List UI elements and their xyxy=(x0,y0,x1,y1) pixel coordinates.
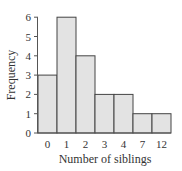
histogram-bar xyxy=(114,94,133,133)
y-axis: 0123456 xyxy=(26,11,39,139)
y-tick-label: 0 xyxy=(26,127,32,139)
x-axis-title: Number of siblings xyxy=(59,152,152,166)
histogram-bar xyxy=(38,75,57,133)
x-tick-label: 7 xyxy=(140,138,146,150)
x-axis: 01234712 xyxy=(38,133,172,150)
x-tick-label: 12 xyxy=(156,138,167,150)
y-tick-label: 2 xyxy=(26,88,32,100)
histogram-bar xyxy=(133,114,152,133)
bars-group xyxy=(38,17,171,133)
histogram-bar xyxy=(152,114,171,133)
x-tick-label: 4 xyxy=(121,138,127,150)
y-tick-label: 1 xyxy=(26,108,32,120)
x-tick-label: 2 xyxy=(83,138,89,150)
y-axis-title: Frequency xyxy=(4,50,18,101)
y-tick-label: 6 xyxy=(26,11,32,23)
histogram-bar xyxy=(57,17,76,133)
y-tick-label: 3 xyxy=(26,69,32,81)
histogram-bar xyxy=(95,94,114,133)
x-tick-label: 0 xyxy=(45,138,51,150)
x-tick-label: 3 xyxy=(102,138,108,150)
histogram-bar xyxy=(76,56,95,133)
y-tick-label: 4 xyxy=(26,50,32,62)
x-tick-label: 1 xyxy=(64,138,70,150)
histogram-chart: 0123456 01234712 Number of siblings Freq… xyxy=(0,0,182,171)
y-tick-label: 5 xyxy=(26,31,32,43)
